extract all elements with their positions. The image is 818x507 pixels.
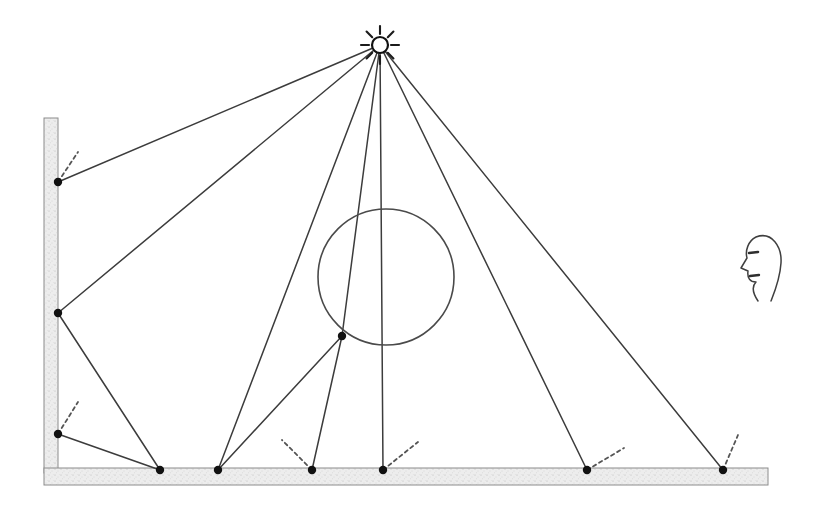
ray-light-to-wall-upper <box>58 45 380 182</box>
rays-group <box>58 45 723 470</box>
floor-hit-4-normal-icon <box>383 442 418 470</box>
floor-hit-6 <box>719 466 727 474</box>
ray-light-to-floor-2 <box>218 45 380 470</box>
light-burst-ray-icon <box>388 32 394 38</box>
light-burst-ray-icon <box>367 32 373 38</box>
observer-group <box>741 236 781 301</box>
sphere-hit-1 <box>338 332 346 340</box>
horizontal-floor <box>44 468 768 485</box>
surface-normals-group <box>58 152 738 470</box>
ray-sphere-to-floor-2 <box>218 336 342 470</box>
wall-hit-lower <box>54 430 62 438</box>
ray-light-to-floor-4 <box>380 45 383 470</box>
floor-hit-3 <box>308 466 316 474</box>
ray-light-to-floor-5 <box>380 45 587 470</box>
hit-points-group <box>54 178 727 474</box>
ray-sphere-to-floor-3 <box>312 336 342 470</box>
mouth-icon <box>750 275 759 276</box>
surfaces-group <box>44 118 768 485</box>
floor-hit-6-normal-icon <box>723 435 738 470</box>
floor-hit-2 <box>214 466 222 474</box>
wall-hit-middle <box>54 309 62 317</box>
ray-wall-lower-to-floor-1 <box>58 434 160 470</box>
ray-light-to-floor-6 <box>380 45 723 470</box>
wall-hit-lower-normal-icon <box>58 402 78 434</box>
sphere-group <box>318 209 454 345</box>
floor-hit-3-normal-icon <box>282 440 312 470</box>
floor-hit-5-normal-icon <box>587 448 624 470</box>
observer-head-profile <box>741 236 781 301</box>
light-source-group <box>361 26 399 64</box>
sphere-object <box>318 209 454 345</box>
ray-light-to-sphere <box>342 45 380 336</box>
ray-light-to-wall-middle <box>58 45 380 313</box>
ray-wall-middle-to-floor-1 <box>58 313 160 470</box>
vertical-wall <box>44 118 58 473</box>
floor-hit-4 <box>379 466 387 474</box>
wall-hit-upper <box>54 178 62 186</box>
floor-hit-1 <box>156 466 164 474</box>
ray-diagram-svg <box>0 0 818 507</box>
light-bulb-icon <box>372 37 388 53</box>
eye-icon <box>749 252 758 253</box>
diagram-canvas <box>0 0 818 507</box>
floor-hit-5 <box>583 466 591 474</box>
